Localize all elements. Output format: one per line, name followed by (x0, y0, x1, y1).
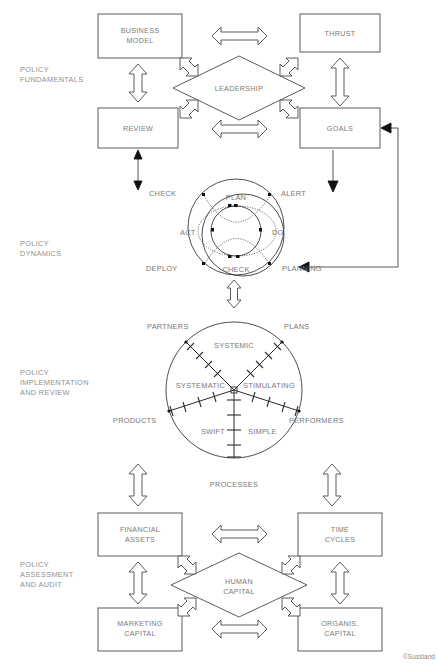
section-label-line: DYNAMICS (20, 249, 61, 258)
double-arrow-horizontal-icon (212, 120, 267, 138)
box-goals: GOALS (300, 108, 380, 148)
section-label-line: IMPLEMENTATION (20, 378, 89, 387)
section-label-policy-fundamentals: POLICY FUNDAMENTALS (20, 65, 83, 84)
box-label-line: ORGANIS. (321, 619, 359, 628)
section-label-policy-assessment: POLICY ASSESSMENT AND AUDIT (20, 560, 74, 589)
section-label-line: POLICY (20, 368, 49, 377)
cycle-node-markers (202, 193, 271, 265)
box-thrust: THRUST (300, 14, 380, 52)
cycle-inner-label-check: CHECK (222, 265, 249, 274)
box-label-line: CAPITAL (324, 629, 356, 638)
radar-outer-label-plans: PLANS (284, 322, 310, 331)
radar-inner-label-systematic: SYSTEMATIC (176, 381, 226, 390)
section-label-line: FUNDAMENTALS (20, 75, 83, 84)
double-arrow-horizontal-icon (212, 27, 267, 45)
double-arrow-diagonal-icon (178, 556, 196, 574)
cycle-outer-label-alert: ALERT (281, 189, 306, 198)
box-time-cycles: TIME CYCLES (298, 513, 382, 556)
double-arrow-vertical-icon (129, 64, 147, 102)
section-label-policy-dynamics: POLICY DYNAMICS (20, 239, 61, 258)
box-label-line: REVIEW (123, 124, 153, 133)
double-arrow-vertical-icon (331, 58, 349, 106)
section-label-line: ASSESSMENT (20, 570, 74, 579)
copyright-notice: ©Sussland (403, 653, 435, 660)
box-label-line: FINANCIAL (120, 525, 160, 534)
radar-outer-label-performers: PERFORMERS (289, 416, 344, 425)
radar-inner-label-simple: SIMPLE (248, 427, 277, 436)
cycle-inner-label-do: DO (272, 228, 284, 237)
section-label-line: AND REVIEW (20, 388, 70, 397)
cycle-outer-label-check: CHECK (149, 189, 176, 198)
cycle-inner-label-plan: PLAN (226, 193, 246, 202)
arrow-goals-down (328, 150, 338, 192)
box-review: REVIEW (98, 108, 178, 148)
cycle-outer-label-planning: PLANNING (282, 264, 322, 273)
diamond-label-line: CAPITAL (223, 587, 255, 596)
radar-spoke-performers (234, 390, 301, 416)
box-label-line: CAPITAL (124, 629, 156, 638)
box-business-model: BUSINESS MODEL (98, 14, 182, 58)
double-arrow-horizontal-icon (212, 620, 267, 638)
section-label-line: POLICY (20, 239, 49, 248)
arrow-review-to-cycle (134, 150, 142, 190)
section-label-line: POLICY (20, 560, 49, 569)
box-label-line: BUSINESS (121, 26, 160, 35)
radar-outer-label-partners: PARTNERS (147, 322, 189, 331)
double-arrow-diagonal-icon (180, 58, 198, 76)
section-label-line: AND AUDIT (20, 580, 62, 589)
section-label-line: POLICY (20, 65, 49, 74)
box-marketing-capital: MARKETING CAPITAL (98, 608, 182, 651)
double-arrow-vertical-icon (129, 464, 147, 506)
cycle-inner-circle (211, 206, 261, 256)
radar-spoke-products (167, 390, 234, 416)
double-arrow-diagonal-icon (180, 100, 198, 118)
section-label-policy-implementation: POLICY IMPLEMENTATION AND REVIEW (20, 368, 89, 397)
radar-inner-label-stimulating: STIMULATING (243, 381, 295, 390)
double-arrow-diagonal-icon (282, 598, 300, 616)
radar-outer-label-products: PRODUCTS (113, 416, 156, 425)
double-arrow-diagonal-icon (178, 598, 196, 616)
box-label-line: MARKETING (117, 619, 163, 628)
box-label-line: GOALS (327, 124, 353, 133)
diamond-label: LEADERSHIP (215, 84, 264, 93)
radar-outer-label-processes: PROCESSES (210, 480, 258, 489)
box-label-line: TIME (331, 525, 349, 534)
double-arrow-horizontal-icon (212, 525, 267, 543)
double-arrow-diagonal-icon (280, 100, 298, 118)
radar-inner-label-swift: SWIFT (201, 427, 225, 436)
diamond-label-line: HUMAN (225, 577, 253, 586)
double-arrow-diagonal-icon (280, 58, 298, 76)
box-label-line: THRUST (325, 29, 356, 38)
double-arrow-vertical-icon (227, 280, 241, 308)
box-financial-assets: FINANCIAL ASSETS (98, 513, 182, 556)
policy-framework-diagram: POLICY FUNDAMENTALS POLICY DYNAMICS POLI… (0, 0, 438, 672)
double-arrow-vertical-icon (129, 562, 147, 604)
box-label-line: ASSETS (125, 535, 155, 544)
box-label-line: CYCLES (325, 535, 356, 544)
double-arrow-vertical-icon (331, 562, 349, 604)
cycle-inner-label-act: ACT (180, 228, 196, 237)
cycle-dotted-ellipse (198, 206, 276, 256)
box-label-line: MODEL (126, 36, 153, 45)
radar-inner-label-systemic: SYSTEMIC (214, 341, 254, 350)
box-organis-capital: ORGANIS. CAPITAL (298, 608, 382, 651)
radar-spoke-processes (227, 390, 241, 458)
double-arrow-vertical-icon (323, 464, 341, 506)
double-arrow-diagonal-icon (282, 556, 300, 574)
cycle-outer-label-deploy: DEPLOY (146, 264, 178, 273)
